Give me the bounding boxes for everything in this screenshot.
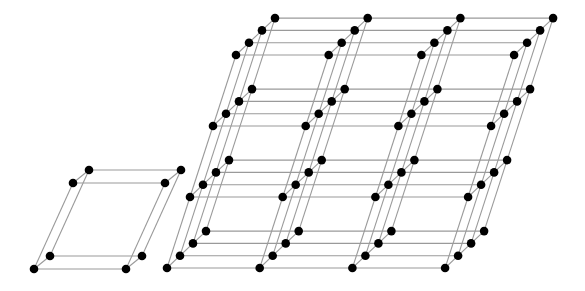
atom-point: [487, 122, 496, 131]
atom-point: [85, 166, 94, 175]
atom-point: [374, 239, 383, 248]
atom-point: [245, 38, 254, 47]
atom-point: [248, 85, 257, 94]
atom-point: [410, 156, 419, 165]
diagram-canvas: [0, 0, 585, 291]
atom-point: [467, 239, 476, 248]
atom-point: [186, 193, 195, 202]
atom-point: [394, 122, 403, 131]
atom-point: [291, 180, 300, 189]
atom-point: [327, 97, 336, 106]
atom-point: [46, 252, 55, 261]
atom-point: [454, 251, 463, 260]
atom-point: [523, 38, 532, 47]
atom-point: [490, 168, 499, 177]
atom-point: [430, 38, 439, 47]
atom-point: [456, 14, 465, 23]
unit-cell: [30, 166, 186, 274]
atom-point: [500, 109, 509, 118]
atom-point: [278, 193, 287, 202]
atoms: [163, 14, 558, 273]
atom-point: [69, 179, 78, 188]
atom-point: [304, 168, 313, 177]
atom-point: [161, 179, 170, 188]
atom-point: [464, 193, 473, 202]
atom-point: [407, 109, 416, 118]
atom-point: [350, 26, 359, 35]
atom-point: [510, 51, 519, 60]
atom-point: [301, 122, 310, 131]
atom-point: [163, 264, 172, 273]
atom-point: [212, 168, 221, 177]
atom-point: [526, 85, 535, 94]
atom-point: [443, 26, 452, 35]
atom-point: [271, 14, 280, 23]
atom-point: [340, 85, 349, 94]
bond-lines: [167, 18, 553, 268]
atom-point: [225, 156, 234, 165]
atom-point: [255, 264, 264, 273]
atom-point: [387, 227, 396, 236]
atom-point: [371, 193, 380, 202]
atom-point: [348, 264, 357, 273]
atom-point: [441, 264, 450, 273]
atom-point: [480, 227, 489, 236]
atom-point: [268, 251, 277, 260]
atom-point: [122, 265, 131, 274]
atom-point: [317, 156, 326, 165]
atom-point: [549, 14, 558, 23]
atom-point: [177, 166, 186, 175]
atom-point: [477, 180, 486, 189]
atom-point: [433, 85, 442, 94]
atom-point: [222, 109, 231, 118]
atom-point: [209, 122, 218, 131]
atom-point: [30, 265, 39, 274]
atom-point: [417, 51, 426, 60]
atom-point: [314, 109, 323, 118]
atom-point: [199, 180, 208, 189]
atom-point: [503, 156, 512, 165]
atom-point: [384, 180, 393, 189]
atom-point: [513, 97, 522, 106]
atoms: [30, 166, 186, 274]
atom-point: [324, 51, 333, 60]
atom-point: [202, 227, 211, 236]
atom-point: [176, 251, 185, 260]
lattice-diagram: [0, 0, 585, 291]
atom-point: [536, 26, 545, 35]
atom-point: [232, 51, 241, 60]
atom-point: [361, 251, 370, 260]
atom-point: [337, 38, 346, 47]
crystal-lattice: [163, 14, 558, 273]
atom-point: [235, 97, 244, 106]
atom-point: [281, 239, 290, 248]
atom-point: [189, 239, 198, 248]
atom-point: [397, 168, 406, 177]
atom-point: [138, 252, 147, 261]
atom-point: [363, 14, 372, 23]
bond-lines: [34, 170, 181, 269]
atom-point: [420, 97, 429, 106]
atom-point: [294, 227, 303, 236]
atom-point: [258, 26, 267, 35]
